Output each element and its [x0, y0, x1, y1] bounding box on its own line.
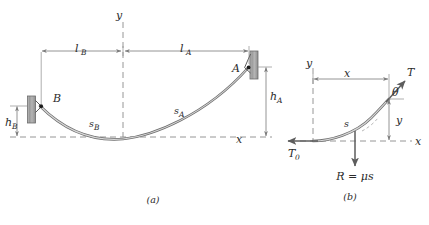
panel-b-group: y x x y T T 0 R = μs θ s (b) [288, 57, 422, 202]
angle-label-theta: θ [392, 86, 399, 99]
cable-segment-curve [313, 99, 389, 141]
support-wall-a [250, 51, 258, 79]
support-wall-b [28, 96, 36, 123]
arc-label-s: s [344, 118, 349, 129]
figure-container: y x B A l B l A h A h B s B [0, 0, 429, 225]
cable-curve-highlight [40, 68, 248, 139]
force-label-tension-t0: T 0 [288, 147, 300, 162]
dimension-label-ha-sub: A [276, 96, 283, 105]
force-label-tension-t: T [407, 66, 416, 79]
panel-b-y-axis-label: y [305, 57, 313, 70]
engineering-figure: y x B A l B l A h A h B s B [0, 0, 429, 225]
panel-a-group: y x B A l B l A h A h B s B [5, 9, 283, 205]
dimension-label-la-sub: A [185, 48, 192, 57]
force-label-tension-t0-sub: 0 [295, 153, 300, 162]
panel-a-caption: (a) [146, 194, 159, 205]
point-label-b: B [52, 92, 61, 105]
attachment-point-a [247, 66, 251, 70]
dimension-label-lb: l B [75, 42, 87, 57]
panel-a-x-axis-label: x [236, 133, 243, 146]
dimension-label-x: x [344, 67, 351, 80]
dimension-label-lb-sub: B [80, 48, 87, 57]
panel-a-y-axis-label: y [115, 9, 123, 22]
dimension-label-la: l A [180, 42, 192, 57]
dimension-label-y: y [395, 114, 403, 127]
arc-label-sb: s B [89, 118, 100, 132]
panel-b-caption: (b) [343, 191, 357, 202]
arc-label-sb-sub: B [93, 123, 100, 132]
force-label-resultant: R = μs [335, 170, 374, 183]
arc-label-sa-sub: A [178, 110, 185, 119]
panel-b-x-axis-label: x [415, 135, 422, 148]
dimension-label-ha: h A [270, 90, 283, 105]
cable-segment-highlight [313, 99, 389, 141]
dimension-label-hb-sub: B [11, 122, 18, 131]
arc-label-sa: s A [174, 105, 185, 119]
dimension-label-lb-text: l [75, 42, 79, 55]
dimension-label-hb: h B [5, 116, 18, 131]
attachment-point-b [39, 104, 43, 108]
point-label-a: A [231, 62, 240, 75]
dimension-label-la-text: l [180, 42, 184, 55]
